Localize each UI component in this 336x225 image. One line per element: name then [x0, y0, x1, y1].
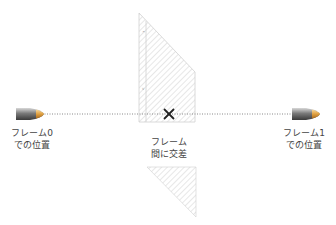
label-between-frames: フレーム 間に交差: [141, 136, 197, 160]
label-frame1-position: フレーム1 での位置: [276, 127, 332, 151]
diagram-svg: ^ v: [0, 0, 336, 225]
label-frame1-line1: フレーム1: [276, 127, 332, 139]
label-between-line2: 間に交差: [141, 148, 197, 160]
label-frame0-position: フレーム0 での位置: [4, 127, 60, 151]
collider-plane-upper: ^ v: [139, 13, 195, 122]
bullet-frame0-icon: [16, 108, 44, 120]
label-frame0-line2: での位置: [4, 139, 60, 151]
collider-plane-lower: [147, 167, 196, 217]
svg-text:^: ^: [142, 30, 145, 35]
bullet-frame1-icon: [292, 108, 320, 120]
label-frame0-line1: フレーム0: [4, 127, 60, 139]
diagram-canvas: ^ v フレーム0 での位置 フレーム 間に交差: [0, 0, 336, 225]
label-frame1-line2: での位置: [276, 139, 332, 151]
label-between-line1: フレーム: [141, 136, 197, 148]
